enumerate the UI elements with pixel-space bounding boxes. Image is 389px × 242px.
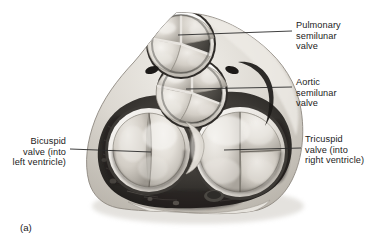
figure-caption: (a) xyxy=(20,222,32,233)
label-pulmonary-semilunar-valve: Pulmonary semilunar valve xyxy=(296,20,341,52)
label-aortic-semilunar-valve: Aortic semilunar valve xyxy=(296,77,337,109)
label-tricuspid-valve: Tricuspid valve (into right ventricle) xyxy=(305,134,364,166)
label-bicuspid-valve: Bicuspid valve (into left ventricle) xyxy=(0,136,66,168)
figure-heart-valves: Pulmonary semilunar valve Aortic semilun… xyxy=(0,0,389,242)
